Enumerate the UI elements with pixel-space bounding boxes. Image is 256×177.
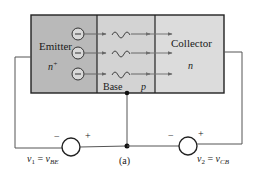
collector-label: Collector [171, 37, 212, 49]
v2-label: v2 = vCB [197, 153, 230, 166]
v1-label: v1 = vBE [27, 153, 59, 166]
base-label: Base [103, 81, 123, 92]
base-doping: p [140, 81, 146, 92]
emitter-label: Emitter [39, 40, 72, 52]
v1-plus: + [85, 130, 91, 141]
figure-caption: (a) [119, 155, 130, 167]
base-emitter-wire [80, 146, 127, 147]
bjt-diagram: Emitter n+ Base p Collector n − + v1 = v… [0, 0, 256, 177]
collector-region [155, 15, 224, 93]
base-terminal-node [125, 91, 130, 96]
collector-doping: n [188, 60, 193, 71]
emitter-region [31, 15, 97, 93]
v2-plus: + [198, 128, 204, 139]
voltage-source-v1 [62, 138, 80, 156]
voltage-source-v2 [179, 137, 197, 155]
v1-minus: − [54, 131, 60, 142]
v2-minus: − [168, 130, 174, 141]
